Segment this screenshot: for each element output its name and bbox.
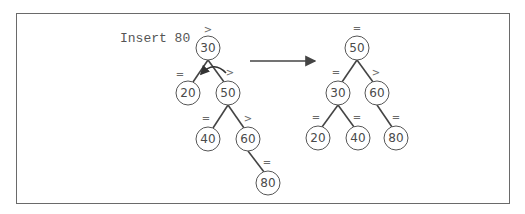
edge-50-60 [357,60,373,82]
insert-caption: Insert 80 [120,31,190,46]
node-60: 60 > [365,67,389,105]
svg-text:60: 60 [369,86,384,100]
svg-text:20: 20 [310,131,325,145]
balance-indicator: = [332,67,340,78]
balance-indicator: = [392,112,400,123]
edge-50-40 [213,105,228,128]
edge-50-30 [342,60,357,82]
balance-indicator: = [176,69,184,80]
after-tree-nodes: 50 = 30 = 60 > 20 = 40 = 80 = [306,23,408,150]
svg-text:80: 80 [260,176,275,190]
balance-indicator: > [372,67,380,78]
edge-30-50 [208,60,224,82]
balance-indicator: = [353,23,361,34]
avl-rotation-diagram: Insert 80 30 > 20 = 50 > 40 = [0,0,525,214]
node-30: 30 > [196,24,220,60]
edge-30-40 [338,105,354,127]
svg-text:50: 50 [220,86,235,100]
balance-indicator: = [353,112,361,123]
node-50: 50 = [345,23,369,60]
node-50: 50 > [216,67,240,105]
before-tree-nodes: 30 > 20 = 50 > 40 = 60 > 80 = [176,24,280,195]
node-20: 20 = [306,112,330,150]
balance-indicator: = [312,112,320,123]
balance-indicator: = [202,113,210,124]
edge-50-60 [228,105,244,128]
node-20: 20 = [176,69,200,105]
svg-text:80: 80 [388,131,403,145]
balance-indicator: > [226,67,234,78]
node-40: 40 = [346,112,370,150]
svg-text:50: 50 [349,41,364,55]
node-30: 30 = [326,67,350,105]
svg-text:30: 30 [330,86,345,100]
edge-30-20 [193,60,208,82]
balance-indicator: > [244,113,252,124]
balance-indicator: = [263,157,271,168]
balance-indicator: > [204,24,212,35]
svg-text:40: 40 [200,132,215,146]
node-80: 80 = [384,112,408,150]
node-60: 60 > [236,113,260,151]
svg-text:30: 30 [200,41,215,55]
edge-60-80 [248,151,264,172]
node-80: 80 = [256,157,280,195]
svg-text:20: 20 [180,86,195,100]
svg-text:40: 40 [350,131,365,145]
node-40: 40 = [196,113,220,151]
edge-30-20 [322,105,338,127]
svg-text:60: 60 [240,132,255,146]
edge-60-80 [377,105,392,127]
